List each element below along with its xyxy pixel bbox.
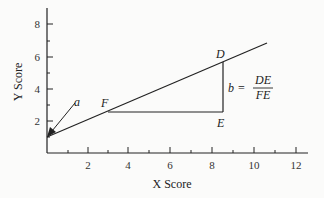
x-ticks	[68, 147, 296, 153]
y-tick-label-8: 8	[35, 18, 41, 30]
label-F: F	[100, 96, 109, 110]
label-E: E	[216, 116, 225, 130]
slope-b: b	[228, 81, 234, 95]
slope-formula: b = DE FE	[228, 73, 273, 102]
label-a: a	[74, 95, 80, 109]
x-tick-label-8: 8	[209, 159, 215, 171]
slope-denominator: FE	[255, 88, 271, 102]
y-tick-label-4: 4	[35, 83, 41, 95]
regression-diagram: 8 6 4 2 2 4 6 8 10 12 X Score Y Score a …	[0, 0, 324, 198]
x-tick-label-12: 12	[291, 159, 302, 171]
y-tick-label-2: 2	[35, 115, 41, 127]
y-axis-title: Y Score	[11, 63, 25, 102]
x-tick-label-2: 2	[85, 159, 91, 171]
y-tick-label-6: 6	[35, 51, 41, 63]
slope-equals: =	[238, 81, 245, 95]
x-tick-label-4: 4	[125, 159, 131, 171]
regression-line	[47, 43, 267, 137]
x-axis-title: X Score	[153, 177, 192, 191]
label-D: D	[215, 47, 225, 61]
x-tick-label-6: 6	[167, 159, 173, 171]
slope-numerator: DE	[254, 73, 272, 87]
y-ticks	[47, 24, 53, 137]
x-tick-label-10: 10	[249, 159, 261, 171]
